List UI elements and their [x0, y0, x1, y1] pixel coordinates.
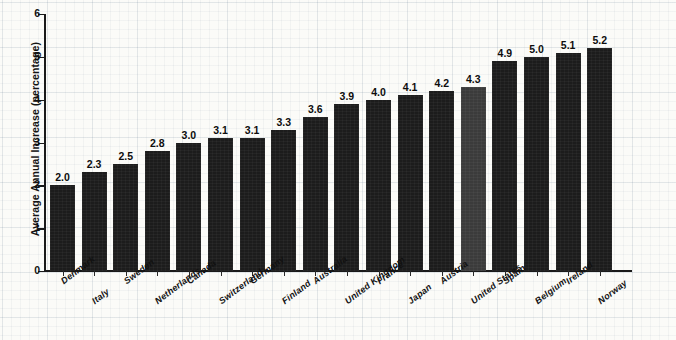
bar-value-label: 4.3	[466, 73, 481, 85]
y-tick-label: 4	[20, 93, 40, 105]
bar: 3.1	[240, 138, 265, 271]
plot-area: 0123456 2.02.32.52.83.03.13.13.33.63.94.…	[44, 14, 632, 271]
x-axis-label: Japan	[406, 282, 434, 306]
bar: 2.0	[50, 185, 75, 271]
x-axis-label: Belgium	[533, 276, 568, 306]
bar-value-label: 5.1	[561, 39, 576, 51]
chart-page: Average Annual Increase (percentage) 012…	[0, 0, 676, 340]
bar-value-label: 3.6	[308, 103, 323, 115]
bar-value-label: 2.3	[87, 158, 102, 170]
bar-value-label: 2.8	[150, 137, 165, 149]
y-tick-label: 5	[20, 50, 40, 62]
bar: 5.2	[587, 48, 612, 271]
bar-value-label: 4.9	[498, 47, 513, 59]
bar: 2.3	[82, 172, 107, 271]
x-axis-labels: DenmarkItalySwedenNetherlandsCanadaSwitz…	[44, 276, 632, 340]
bar-value-label: 2.5	[118, 150, 133, 162]
y-tick-label: 3	[20, 136, 40, 148]
bar-value-label: 3.3	[276, 116, 291, 128]
bar: 3.9	[334, 104, 359, 271]
bar-value-label: 3.0	[182, 129, 197, 141]
bar-value-label: 5.0	[529, 43, 544, 55]
bar: 5.0	[524, 57, 549, 271]
bar: 4.2	[429, 91, 454, 271]
bar-value-label: 5.2	[592, 34, 607, 46]
bar-value-label: 4.2	[434, 77, 449, 89]
bar: 3.3	[271, 130, 296, 271]
bar-value-label: 4.1	[403, 81, 418, 93]
x-axis-label: Italy	[90, 287, 111, 306]
bar: 3.0	[176, 143, 201, 272]
bar: 4.0	[366, 100, 391, 271]
bar: 3.6	[303, 117, 328, 271]
bar-value-label: 4.0	[371, 86, 386, 98]
y-tick-label: 2	[20, 178, 40, 190]
bar-value-label: 2.0	[55, 171, 70, 183]
bar-value-label: 3.9	[340, 90, 355, 102]
y-tick-label: 0	[20, 264, 40, 276]
y-tick-label: 6	[20, 7, 40, 19]
x-axis-label: Norway	[596, 278, 629, 306]
bar-value-label: 3.1	[213, 124, 228, 136]
bar: 3.1	[208, 138, 233, 271]
bar-value-label: 3.1	[245, 124, 260, 136]
bar: 5.1	[556, 53, 581, 271]
bar: 4.1	[398, 95, 423, 271]
bar: 2.5	[113, 164, 138, 271]
x-axis-label: Finland	[280, 278, 313, 306]
bar: 4.9	[492, 61, 517, 271]
bar: 2.8	[145, 151, 170, 271]
y-tick-label: 1	[20, 221, 40, 233]
bar: 4.3	[461, 87, 486, 271]
